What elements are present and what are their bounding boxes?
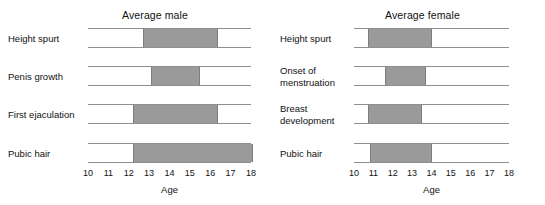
x-tick-15: 15 [446,168,456,178]
bar-female-height-spurt [368,29,432,47]
row-rule-bottom [88,162,251,163]
bar-female-onset-of-menstruation [385,67,426,85]
bar-male-first-ejaculation [133,105,219,123]
row-label-male-3: Pubic hair [8,148,84,160]
bar-row-female-1 [354,66,509,86]
row-rule-bottom [354,85,509,86]
bar-row-female-3 [354,143,509,163]
bar-male-height-spurt [143,29,218,47]
row-label-female-1: Onset of menstruation [280,65,350,88]
bar-row-female-0 [354,28,509,48]
row-label-female-3: Pubic hair [280,148,350,160]
bar-row-male-2 [88,104,251,124]
row-label-female-2: Breast development [280,103,350,126]
panel-average-female: Average female Height spurt Onset of men… [272,0,545,205]
x-tick-13: 13 [407,168,417,178]
row-rule-bottom [88,47,251,48]
panel-average-male: Average male Height spurt Penis growth F… [0,0,272,205]
x-tick-13: 13 [144,168,154,178]
row-label-female-0: Height spurt [280,33,350,45]
x-axis-title-male: Age [88,184,251,195]
bar-row-male-0 [88,28,251,48]
row-rule-bottom [354,162,509,163]
x-tick-10: 10 [349,168,359,178]
row-rule-top [354,66,509,67]
row-rule-bottom [88,123,251,124]
x-tick-12: 12 [388,168,398,178]
x-axis-title-female: Age [354,184,509,195]
bar-female-breast-development [368,105,422,123]
bar-female-pubic-hair [370,144,432,162]
puberty-timeline-figure: Average male Height spurt Penis growth F… [0,0,545,205]
bar-male-pubic-hair [133,144,253,162]
x-tick-14: 14 [164,168,174,178]
x-tick-18: 18 [504,168,514,178]
x-axis-ticks-male: 101112131415161718 [88,168,251,182]
row-label-male-0: Height spurt [8,33,84,45]
plot-area-female: 101112131415161718 Age [354,0,509,205]
plot-area-male: 101112131415161718 Age [88,0,251,205]
x-tick-16: 16 [465,168,475,178]
bar-male-penis-growth [151,67,200,85]
row-label-male-1: Penis growth [8,71,84,83]
x-tick-17: 17 [226,168,236,178]
bar-row-female-2 [354,104,509,124]
row-label-male-2: First ejaculation [8,109,84,121]
x-tick-11: 11 [104,168,113,178]
bar-row-male-3 [88,143,251,163]
x-tick-14: 14 [426,168,436,178]
x-tick-15: 15 [185,168,195,178]
row-rule-bottom [354,47,509,48]
x-tick-11: 11 [369,168,378,178]
bar-row-male-1 [88,66,251,86]
row-rule-bottom [88,85,251,86]
row-rule-bottom [354,123,509,124]
x-tick-10: 10 [83,168,93,178]
x-tick-18: 18 [246,168,256,178]
x-tick-16: 16 [205,168,215,178]
x-tick-12: 12 [124,168,134,178]
x-axis-ticks-female: 101112131415161718 [354,168,509,182]
x-tick-17: 17 [485,168,495,178]
